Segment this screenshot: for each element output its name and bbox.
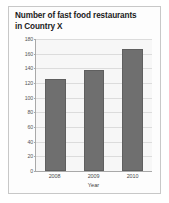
y-axis-tick-mark — [34, 156, 36, 157]
y-axis-tick-mark — [34, 98, 36, 99]
y-axis-tick-label: 20 — [15, 153, 33, 159]
plot-area — [35, 39, 152, 172]
y-axis-tick-mark — [34, 142, 36, 143]
x-axis-tick-label: 2008 — [49, 173, 61, 179]
chart-title: Number of fast food restaurants in Count… — [15, 11, 156, 32]
y-axis-tick-mark — [34, 54, 36, 55]
y-axis-tick-mark — [34, 171, 36, 172]
y-axis-tick-label: 80 — [15, 109, 33, 115]
x-axis-tick-label: 2009 — [88, 173, 100, 179]
y-axis-tick-mark — [34, 68, 36, 69]
chart-title-line-1: Number of fast food restaurants — [15, 11, 137, 20]
plot-wrapper: 020406080100120140160180 200820092010 Ye… — [15, 37, 156, 189]
y-axis-tick-label: 0 — [15, 168, 33, 174]
bar — [122, 49, 143, 171]
chart-card: Number of fast food restaurants in Count… — [8, 6, 161, 194]
bar — [45, 79, 66, 171]
y-axis-tick-label: 120 — [15, 80, 33, 86]
chart-title-line-2: in Country X — [15, 22, 62, 31]
y-axis-tick-mark — [34, 127, 36, 128]
y-axis-tick-mark — [34, 112, 36, 113]
x-axis-tick-label: 2010 — [127, 173, 139, 179]
y-axis-tick-label: 140 — [15, 65, 33, 71]
gridline — [36, 39, 152, 40]
x-axis-title: Year — [35, 182, 152, 188]
bar — [84, 70, 105, 171]
y-axis-tick-label: 40 — [15, 139, 33, 145]
y-axis-tick-mark — [34, 83, 36, 84]
y-axis-tick-label: 180 — [15, 36, 33, 42]
y-axis-tick-labels: 020406080100120140160180 — [15, 39, 33, 171]
y-axis-tick-label: 60 — [15, 124, 33, 130]
y-axis-tick-label: 160 — [15, 51, 33, 57]
y-axis-tick-mark — [34, 39, 36, 40]
y-axis-tick-label: 100 — [15, 95, 33, 101]
